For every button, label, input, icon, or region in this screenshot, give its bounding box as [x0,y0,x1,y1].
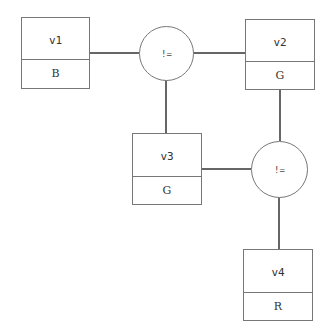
variable-name: v1 [22,34,89,47]
variable-name: v4 [244,266,312,279]
variable-node-v3[interactable]: v3 G [132,133,202,205]
constraint-node-c2[interactable]: != [251,141,308,198]
variable-value: G [246,61,314,89]
constraint-label: != [274,165,285,175]
variable-value: R [244,292,312,320]
variable-node-v4[interactable]: v4 R [243,249,313,321]
variable-name: v3 [133,150,201,163]
variable-node-v1[interactable]: v1 B [21,17,90,89]
variable-node-v2[interactable]: v2 G [245,19,315,90]
constraint-node-c1[interactable]: != [139,26,194,81]
variable-name: v2 [246,36,314,49]
variable-value: B [22,59,89,88]
constraint-label: != [161,49,172,59]
variable-value: G [133,176,201,204]
